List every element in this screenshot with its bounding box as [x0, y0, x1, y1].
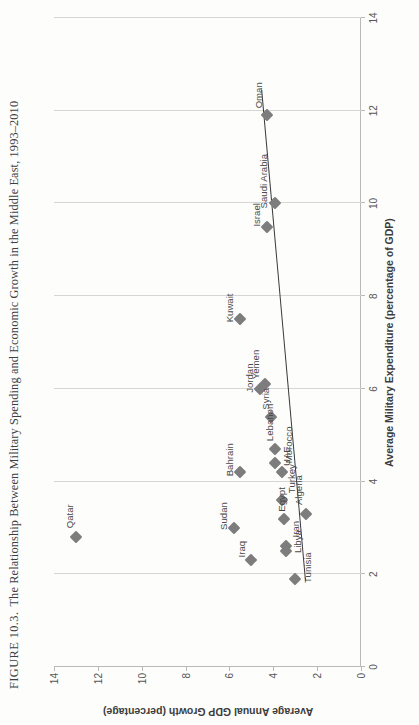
y-tick-label: 6: [224, 667, 235, 679]
data-point-label: Morocco: [283, 427, 294, 464]
x-gridline: [54, 388, 361, 389]
x-tick: [361, 110, 365, 111]
scatter-chart: Average Annual GDP Growth (percentage) A…: [28, 0, 419, 725]
y-tick-label: 14: [49, 667, 60, 684]
data-point-label: Egypt: [276, 487, 287, 512]
y-tick-label: 8: [180, 667, 191, 679]
x-tick-label: 0: [368, 664, 379, 670]
data-point[interactable]: [234, 466, 247, 479]
data-point-label: Bahrain: [224, 443, 235, 476]
x-tick-label: 12: [368, 105, 379, 116]
plot-area: 0246810121402468101214QatarSudanIraqKuwa…: [54, 18, 361, 667]
x-gridline: [54, 17, 361, 18]
x-tick: [361, 388, 365, 389]
x-tick: [361, 481, 365, 482]
data-point[interactable]: [300, 508, 313, 521]
x-tick: [361, 573, 365, 574]
x-gridline: [54, 295, 361, 296]
x-tick: [361, 17, 365, 18]
y-tick-label: 4: [268, 667, 279, 679]
data-point-label: Algeria: [293, 475, 304, 505]
figure-caption-text: The Relationship Between Military Spendi…: [7, 101, 22, 607]
data-point-label: Lebanon: [264, 404, 275, 441]
y-tick-label: 12: [92, 667, 103, 684]
data-point[interactable]: [289, 573, 302, 586]
y-tick-label: 10: [136, 667, 147, 684]
data-point[interactable]: [245, 554, 258, 567]
x-axis-title: Average Military Expenditure (percentage…: [383, 18, 395, 667]
data-point-label: Qatar: [63, 504, 74, 528]
data-point-label: Sudan: [217, 502, 228, 530]
x-gridline: [54, 202, 361, 203]
data-point[interactable]: [234, 313, 247, 326]
figure-caption: FIGURE 10.3. The Relationship Between Mi…: [0, 0, 28, 725]
figure-page: FIGURE 10.3. The Relationship Between Mi…: [0, 0, 419, 725]
x-gridline: [54, 481, 361, 482]
x-tick-label: 14: [368, 12, 379, 23]
data-point-label: Oman: [252, 82, 263, 108]
y-axis-title: Average Annual GDP Growth (percentage): [54, 705, 361, 719]
x-gridline: [54, 573, 361, 574]
y-axis-title-text: Average Annual GDP Growth (percentage): [102, 706, 312, 718]
data-point-label: Kuwait: [224, 294, 235, 323]
y-tick-label: 2: [312, 667, 323, 679]
data-point-label: Saudi Arabia: [258, 154, 269, 208]
figure-number: FIGURE 10.3.: [7, 612, 22, 689]
x-tick: [361, 295, 365, 296]
data-point[interactable]: [227, 522, 240, 535]
x-tick-label: 4: [368, 479, 379, 485]
x-gridline: [54, 110, 361, 111]
x-tick-label: 2: [368, 572, 379, 578]
data-point-label: Yemen: [249, 350, 260, 380]
x-tick-label: 10: [368, 198, 379, 209]
y-tick-label: 0: [356, 667, 367, 679]
x-tick-label: 8: [368, 293, 379, 299]
data-point[interactable]: [278, 512, 291, 525]
data-point[interactable]: [70, 531, 83, 544]
data-point-label: Iraq: [236, 541, 247, 558]
x-tick-label: 6: [368, 386, 379, 392]
data-point-label: Tunisia: [302, 552, 313, 583]
chart-rotation-wrapper: Average Annual GDP Growth (percentage) A…: [28, 0, 419, 725]
x-tick: [361, 202, 365, 203]
data-point-label: Libya: [292, 530, 303, 553]
data-point[interactable]: [269, 443, 282, 456]
data-point[interactable]: [260, 220, 273, 233]
